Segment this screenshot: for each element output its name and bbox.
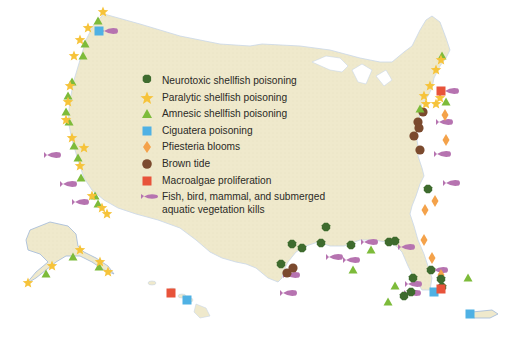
neurotoxic-marker-icon [424,185,432,193]
legend-item-neurotoxic: Neurotoxic shellfish poisoning [140,74,350,91]
neurotoxic-marker-icon [347,241,355,249]
legend-item-brown-tide: Brown tide [140,157,350,174]
neurotoxic-marker-icon [288,240,296,248]
legend-item-amnesic: Amnesic shellfish poisoning [140,107,350,124]
kills-marker-icon [72,199,89,205]
legend-item-macroalgae: Macroalgae proliferation [140,174,350,191]
neurotoxic-marker-icon [437,275,445,283]
dark-green-octagon-icon [140,74,162,88]
legend-item-pfiesteria: Pfiesteria blooms [140,140,350,157]
legend: Neurotoxic shellfish poisoning Paralytic… [140,74,350,220]
purple-fish-icon [140,190,162,204]
green-triangle-icon [140,107,162,121]
brown-tide-marker-icon [288,263,297,272]
neurotoxic-marker-icon [427,266,435,274]
legend-item-kills: Fish, bird, mammal, and submerged aquati… [140,190,350,220]
neurotoxic-marker-icon [400,292,408,300]
pfiesteria-marker-icon [429,252,436,264]
macroalgae-marker-icon [437,285,446,294]
brown-circle-icon [140,157,162,171]
neurotoxic-marker-icon [409,274,417,282]
kills-marker-icon [434,151,451,157]
neurotoxic-marker-icon [391,237,399,245]
kills-marker-icon [343,257,360,263]
neurotoxic-marker-icon [317,239,325,247]
kills-marker-icon [280,290,297,296]
pfiesteria-marker-icon [421,234,428,246]
macroalgae-marker-icon [437,87,446,96]
kills-marker-icon [44,152,61,158]
neurotoxic-marker-icon [322,223,330,231]
kills-marker-icon [60,181,77,187]
kills-marker-icon [443,180,460,186]
ciguatera-marker-icon [466,310,475,319]
amnesic-marker-icon [464,274,473,282]
red-square-icon [140,174,162,188]
amnesic-marker-icon [349,266,358,274]
macroalgae-marker-icon [167,289,176,298]
pfiesteria-marker-icon [443,134,450,146]
pfiesteria-marker-icon [422,204,429,216]
pfiesteria-marker-icon [432,195,439,207]
paralytic-marker-icon [69,50,80,60]
brown-tide-marker-icon [415,145,424,154]
legend-item-paralytic: Paralytic shellfish poisoning [140,91,350,108]
neurotoxic-marker-icon [277,260,285,268]
amnesic-marker-icon [384,298,393,306]
blue-square-icon [140,124,162,138]
ciguatera-marker-icon [95,27,104,36]
neurotoxic-marker-icon [298,244,306,252]
legend-item-ciguatera: Ciguatera poisoning [140,124,350,141]
brown-tide-marker-icon [414,123,423,132]
puerto-rico [472,310,498,318]
kills-marker-icon [326,254,343,260]
brown-tide-marker-icon [409,131,418,140]
orange-diamond-icon [140,140,162,154]
amnesic-marker-icon [391,282,400,290]
hawaii-islands [148,281,210,318]
alaska-landmass [26,222,114,284]
yellow-star-icon [140,91,162,105]
amnesic-marker-icon [367,246,376,254]
ciguatera-marker-icon [183,296,192,305]
